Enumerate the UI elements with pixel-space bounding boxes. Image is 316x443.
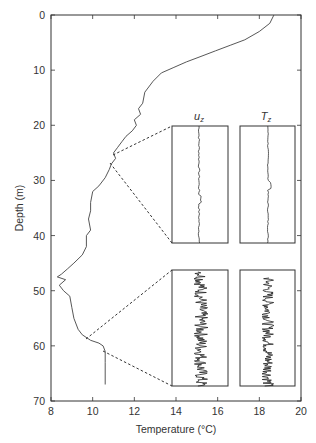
x-tick-label: 8	[48, 405, 54, 417]
x-tick-label: 20	[295, 405, 307, 417]
y-tick-label: 20	[33, 119, 45, 131]
upper-connector-bottom	[110, 163, 172, 243]
y-tick-label: 0	[39, 9, 45, 21]
x-tick-label: 12	[128, 405, 140, 417]
x-tick-label: 10	[87, 405, 99, 417]
y-tick-label: 30	[33, 174, 45, 186]
x-tick-label: 14	[170, 405, 182, 417]
inset-label-uz: uz	[194, 110, 204, 124]
x-axis-label: Temperature (°C)	[136, 423, 217, 435]
lower-connector-top	[86, 270, 172, 339]
x-tick-label: 18	[253, 405, 265, 417]
y-tick-label: 40	[33, 230, 45, 242]
inset-label-tz: Tz	[261, 110, 272, 124]
y-axis-tick-labels: 010203040506070	[33, 9, 45, 407]
upper-insets	[172, 126, 295, 243]
y-tick-label: 70	[33, 395, 45, 407]
temperature-depth-chart: 8101214161820 010203040506070 Temperatur…	[0, 0, 316, 443]
lower-insets	[172, 270, 295, 386]
inset-connector-lines	[86, 126, 172, 386]
y-axis-label: Depth (m)	[13, 185, 25, 232]
upper-connector-top	[113, 126, 172, 155]
lower-connector-bottom	[103, 351, 172, 386]
y-tick-label: 10	[33, 64, 45, 76]
upper-uz-panel	[172, 126, 228, 243]
x-axis-tick-labels: 8101214161820	[48, 405, 307, 417]
y-tick-label: 60	[33, 340, 45, 352]
x-tick-label: 16	[212, 405, 224, 417]
y-tick-label: 50	[33, 285, 45, 297]
